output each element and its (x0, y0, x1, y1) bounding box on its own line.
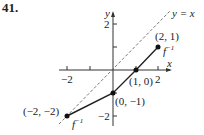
f-inverse-label-upper: f−1 (163, 45, 174, 57)
identity-line (59, 11, 170, 124)
f-inverse-label-lower: f−1 (72, 118, 83, 130)
point-label-2-1: (2, 1) (155, 31, 179, 42)
x-axis-label: x (167, 58, 172, 69)
y-axis-arrow (111, 11, 115, 17)
point-label-0-neg1: (0, −1) (115, 96, 145, 107)
x-tick-neg2: −2 (61, 74, 73, 85)
y-tick-2: 2 (104, 19, 110, 30)
point-label-neg2-neg2: (−2, −2) (23, 106, 59, 117)
point-label-1-0: (1, 0) (129, 76, 153, 87)
y-tick-neg2: −2 (98, 111, 110, 122)
identity-line-label: y = x (172, 8, 195, 19)
x-tick-2: 2 (155, 74, 161, 85)
